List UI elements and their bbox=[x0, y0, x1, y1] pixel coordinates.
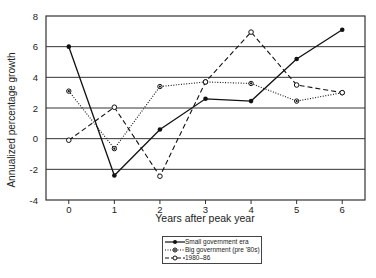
data-point bbox=[203, 80, 208, 85]
y-tick-label: 6 bbox=[33, 41, 38, 52]
data-point bbox=[66, 44, 71, 49]
dashed-line-open-marker-icon bbox=[165, 254, 185, 262]
data-point bbox=[249, 99, 254, 104]
data-point bbox=[203, 97, 208, 102]
data-point bbox=[112, 173, 117, 178]
series-1 bbox=[67, 80, 345, 151]
gridlines bbox=[46, 47, 365, 170]
y-tick-label: 2 bbox=[33, 103, 38, 114]
y-tick-label: 8 bbox=[33, 11, 38, 22]
y-tick-label: 0 bbox=[33, 133, 38, 144]
legend-item-small-government: Small government era bbox=[163, 238, 261, 246]
data-point bbox=[66, 138, 71, 143]
data-point bbox=[294, 83, 299, 88]
data-point bbox=[112, 105, 117, 110]
y-axis-title: Annualized percentage growth bbox=[2, 30, 20, 210]
y-tick-label: -2 bbox=[30, 164, 38, 175]
data-point bbox=[158, 174, 163, 179]
dotted-line-marker-icon bbox=[165, 246, 185, 254]
legend-item-big-government: Big government (pre '80s) bbox=[163, 246, 261, 254]
x-axis-title: Years after peak year bbox=[0, 212, 376, 224]
y-tick-label: 4 bbox=[33, 72, 38, 83]
solid-line-filled-marker-icon bbox=[165, 238, 185, 246]
legend-label: 1980–86 bbox=[185, 254, 210, 262]
y-axis-title-text: Annualized percentage growth bbox=[6, 52, 17, 187]
y-tick-label: -4 bbox=[30, 195, 38, 206]
legend-label: Big government (pre '80s) bbox=[185, 246, 260, 254]
legend: Small government era Big government (pre… bbox=[162, 236, 262, 264]
legend-label: Small government era bbox=[185, 238, 249, 246]
series-0 bbox=[66, 28, 344, 178]
data-point bbox=[340, 90, 345, 95]
data-point bbox=[340, 28, 345, 33]
data-point bbox=[249, 30, 254, 35]
y-axis: -4-202468 bbox=[30, 11, 38, 206]
legend-item-1980-86: 1980–86 bbox=[163, 254, 261, 262]
data-point bbox=[158, 127, 163, 132]
data-point bbox=[294, 57, 299, 62]
